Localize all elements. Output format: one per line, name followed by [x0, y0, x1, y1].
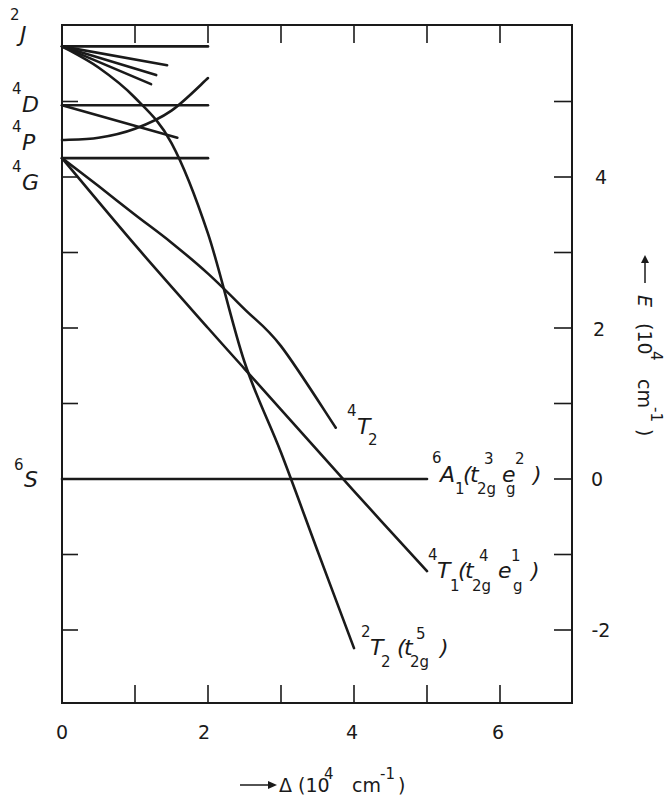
svg-text:2: 2 — [368, 431, 378, 449]
svg-text:2g: 2g — [477, 480, 496, 498]
svg-text:g: g — [513, 577, 523, 595]
arrowhead-icon — [268, 781, 277, 789]
svg-text:Δ: Δ — [279, 774, 292, 796]
data-series — [62, 46, 427, 648]
svg-text:4: 4 — [346, 721, 358, 743]
svg-text:2: 2 — [10, 6, 20, 24]
svg-text:D: D — [22, 92, 39, 117]
svg-text:6: 6 — [492, 721, 504, 743]
svg-text:6: 6 — [14, 456, 24, 474]
svg-text:0: 0 — [56, 721, 68, 743]
series-4t2 — [62, 158, 336, 428]
svg-text:G: G — [22, 170, 39, 195]
curve-label-6A1: 6 A 1 ( t 2g 3 e g 2 ) — [432, 449, 542, 498]
svg-text:4: 4 — [12, 80, 22, 98]
svg-text:): ) — [531, 462, 542, 487]
svg-text:A: A — [438, 462, 455, 487]
y-axis-title: E (10 4 cm -1 ) — [634, 255, 665, 436]
svg-text:-1: -1 — [380, 765, 395, 783]
svg-text:4: 4 — [12, 158, 22, 176]
svg-text:2g: 2g — [472, 577, 491, 595]
svg-text:cm: cm — [634, 379, 656, 408]
y-tick-labels: 4 2 0 -2 — [591, 166, 611, 641]
svg-text:): ) — [634, 429, 656, 436]
svg-text:1: 1 — [511, 547, 521, 565]
svg-text:4: 4 — [595, 166, 607, 188]
curve-label-4T1: 4 T 1 ( t 2g 4 e g 1 ) — [428, 546, 540, 595]
level-label-6S: 6 S — [14, 456, 38, 492]
svg-text:-1: -1 — [647, 407, 665, 422]
svg-text:(10: (10 — [634, 323, 656, 355]
svg-text:e: e — [498, 558, 512, 583]
svg-text:): ) — [398, 774, 405, 796]
svg-text:3: 3 — [484, 450, 494, 468]
series-2j-fan-c — [62, 46, 151, 84]
arrowhead-icon — [641, 255, 649, 263]
level-label-4D: 4 D — [12, 80, 39, 117]
svg-text:4: 4 — [647, 351, 665, 361]
svg-text:): ) — [529, 558, 540, 583]
svg-text:S: S — [24, 467, 38, 492]
series-4p-branch — [62, 78, 208, 140]
svg-text:J: J — [16, 22, 27, 47]
level-label-4P: 4 P — [12, 118, 36, 155]
svg-text:4: 4 — [479, 547, 489, 565]
svg-text:cm: cm — [352, 774, 381, 796]
svg-text:E: E — [634, 295, 656, 307]
curve-label-2T2: 2 T 2 ( t 2g 5 ) — [361, 623, 449, 671]
level-label-4G: 4 G — [12, 158, 39, 195]
svg-text:g: g — [506, 480, 516, 498]
svg-text:4: 4 — [12, 118, 22, 136]
x-axis-title: Δ (10 4 cm -1 ) — [240, 765, 405, 796]
svg-text:2: 2 — [515, 450, 525, 468]
svg-text:-2: -2 — [592, 619, 611, 641]
level-label-2J: 2 J — [10, 6, 27, 47]
svg-text:5: 5 — [416, 625, 426, 643]
curve-label-4T2: 4 T 2 — [347, 402, 378, 449]
x-tick-labels: 0 2 4 6 — [56, 721, 504, 743]
svg-text:2: 2 — [198, 721, 210, 743]
svg-text:): ) — [438, 635, 449, 660]
svg-text:4: 4 — [324, 765, 334, 783]
svg-text:2: 2 — [381, 653, 391, 671]
svg-text:4: 4 — [347, 402, 357, 420]
svg-text:P: P — [22, 130, 36, 155]
svg-text:2: 2 — [593, 318, 605, 340]
tanabe-sugano-diagram: 2 J 4 D 4 P 4 G 6 S 4 T 2 6 A 1 ( t 2g 3… — [0, 0, 672, 803]
svg-text:2g: 2g — [410, 653, 429, 671]
svg-text:0: 0 — [591, 468, 603, 490]
